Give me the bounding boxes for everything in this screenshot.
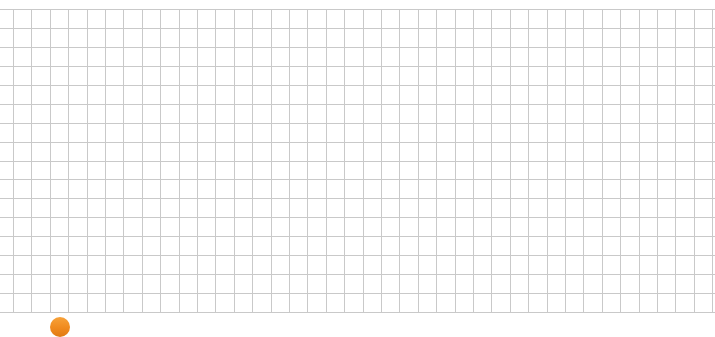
orange-circle-icon — [50, 317, 70, 337]
